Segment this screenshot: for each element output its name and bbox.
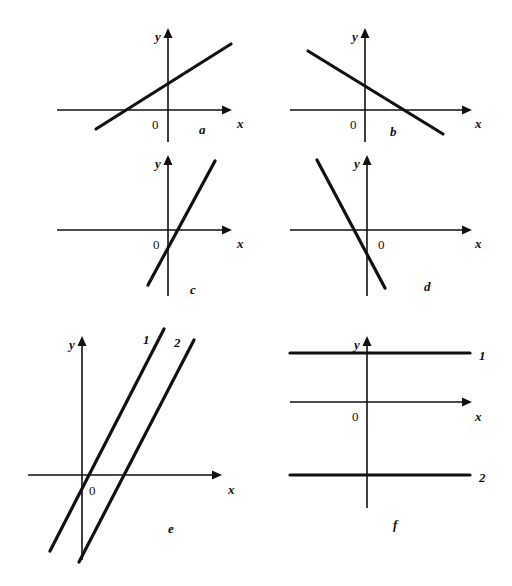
plot-line-a-1	[96, 44, 231, 129]
x-axis-arrow-b	[462, 106, 472, 115]
origin-label-a: 0	[152, 118, 159, 131]
origin-label-e: 0	[89, 484, 96, 497]
y-axis-label-c: y	[155, 157, 161, 170]
y-axis-arrow-c	[164, 155, 173, 165]
plot-line-label-e-2: 2	[174, 336, 181, 349]
panel-label-d: d	[424, 280, 431, 293]
plot-line-label-f-2: 2	[479, 471, 486, 484]
y-axis-arrow-b	[361, 28, 370, 38]
x-axis-arrow-c	[222, 226, 232, 235]
x-axis-label-d: x	[475, 237, 482, 250]
plot-line-label-f-1: 1	[479, 349, 486, 362]
panel-label-c: c	[190, 283, 196, 296]
panel-label-b: b	[390, 125, 397, 138]
x-axis-arrow-e	[212, 471, 222, 480]
panel-label-e: e	[168, 522, 174, 535]
y-axis-label-d: y	[354, 157, 360, 170]
plot-line-e-2	[79, 340, 194, 562]
plot-line-c-1	[148, 161, 215, 285]
y-axis-arrow-f	[363, 336, 372, 346]
plot-line-d-1	[317, 160, 385, 288]
figure-canvas: xy0axy0bxy0cxy0dxy012exy012f	[0, 0, 512, 586]
y-axis-arrow-e	[78, 336, 87, 346]
x-axis-label-e: x	[228, 483, 235, 496]
plot-line-label-e-1: 1	[143, 333, 150, 346]
origin-label-b: 0	[350, 118, 357, 131]
x-axis-label-c: x	[237, 237, 244, 250]
plot-line-b-1	[308, 51, 443, 134]
panel-label-a: a	[199, 123, 206, 136]
plot-line-e-1	[50, 329, 164, 551]
y-axis-label-a: y	[155, 30, 161, 43]
y-axis-label-b: y	[352, 30, 358, 43]
x-axis-arrow-d	[462, 226, 472, 235]
y-axis-label-e: y	[69, 338, 75, 351]
y-axis-arrow-d	[363, 155, 372, 165]
origin-label-f: 0	[352, 410, 359, 423]
x-axis-label-f: x	[475, 410, 482, 423]
y-axis-label-f: y	[354, 338, 360, 351]
x-axis-label-a: x	[237, 117, 244, 130]
x-axis-arrow-a	[222, 106, 232, 115]
y-axis-arrow-a	[164, 28, 173, 38]
panel-label-f: f	[393, 518, 397, 531]
origin-label-c: 0	[153, 238, 160, 251]
origin-label-d: 0	[378, 238, 385, 251]
x-axis-arrow-f	[462, 398, 472, 407]
figure-vector-layer	[0, 0, 512, 586]
x-axis-label-b: x	[475, 117, 482, 130]
